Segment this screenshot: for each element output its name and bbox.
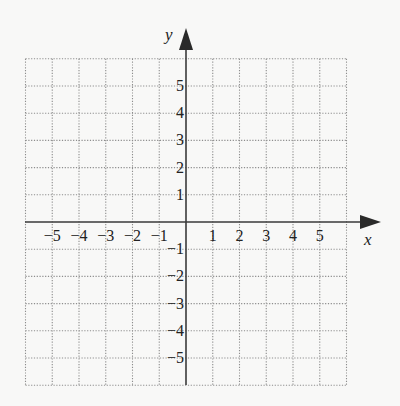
y-axis-label: y	[163, 25, 173, 44]
y-tick-label: 2	[176, 159, 184, 176]
x-tick-label: 2	[236, 227, 244, 244]
coordinate-grid-svg: −5−4−3−2−11234554321−1−2−3−4−5 x y	[0, 0, 400, 406]
y-tick-label: −5	[167, 349, 184, 366]
y-tick-label: 3	[176, 131, 184, 148]
x-tick-label: 1	[209, 227, 217, 244]
x-tick-label: −2	[124, 227, 141, 244]
y-tick-label: −1	[167, 240, 184, 257]
y-tick-label: 4	[176, 104, 184, 121]
axes	[25, 28, 381, 385]
y-axis-arrow-icon	[179, 28, 193, 50]
y-tick-label: −3	[167, 295, 184, 312]
x-tick-label: −3	[97, 227, 114, 244]
x-tick-label: −5	[44, 227, 61, 244]
y-tick-label: 1	[176, 186, 184, 203]
x-axis-label: x	[363, 230, 372, 249]
coordinate-plane: −5−4−3−2−11234554321−1−2−3−4−5 x y	[0, 0, 400, 406]
y-tick-label: −4	[167, 322, 184, 339]
x-tick-label: 3	[262, 227, 270, 244]
x-tick-label: −4	[70, 227, 87, 244]
x-tick-label: 4	[289, 227, 297, 244]
y-tick-label: 5	[176, 77, 184, 94]
x-tick-label: −1	[151, 227, 168, 244]
y-tick-label: −2	[167, 267, 184, 284]
x-tick-label: 5	[316, 227, 324, 244]
x-axis-arrow-icon	[360, 215, 381, 229]
